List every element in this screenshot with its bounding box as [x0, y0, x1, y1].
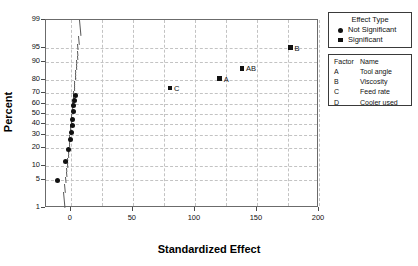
- factor-table-row: BViscosity: [329, 77, 411, 87]
- gridline: [319, 20, 320, 206]
- legend-entry-label: Significant: [348, 35, 383, 45]
- normal-probability-plot: Percent 151020304050607080909599 CAABB 0…: [0, 0, 418, 266]
- fit-line-segment: [76, 67, 77, 70]
- data-point-not-significant: [55, 178, 60, 183]
- x-tick-mark: [256, 207, 257, 211]
- gridline-minor: [102, 20, 103, 206]
- gridline: [46, 166, 317, 167]
- circle-marker-icon: [336, 28, 345, 33]
- x-tick-label: 150: [236, 214, 276, 222]
- factor-name: Viscosity: [360, 77, 411, 87]
- factor-name: Cooler used: [360, 98, 411, 108]
- fit-line-segment: [77, 51, 78, 56]
- factor-header-code: Factor: [334, 57, 360, 67]
- factor-table-row: DCooler used: [329, 98, 411, 108]
- fit-line-segment: [66, 172, 67, 177]
- y-tick-label: 95: [32, 43, 40, 51]
- y-tick-label: 1: [36, 203, 40, 211]
- gridline: [46, 62, 317, 63]
- factor-code: A: [334, 67, 360, 77]
- y-tick-label: 70: [32, 88, 40, 96]
- y-axis-title: Percent: [2, 82, 14, 142]
- fit-line-segment: [76, 64, 77, 67]
- data-point-label: B: [294, 45, 299, 53]
- data-point-significant: [217, 76, 222, 81]
- fit-line-segment: [67, 164, 68, 168]
- data-point-not-significant: [70, 117, 75, 122]
- legend-effect-type-title: Effect Type: [329, 15, 411, 24]
- factor-table-header: Factor Name: [329, 57, 411, 67]
- data-point-significant: [288, 45, 293, 50]
- fit-line-segment: [68, 155, 69, 158]
- factor-code: C: [334, 87, 360, 97]
- fit-line-segment: [64, 183, 66, 192]
- y-tick-label: 90: [32, 57, 40, 65]
- gridline: [46, 93, 317, 94]
- y-tick-label: 80: [32, 75, 40, 83]
- gridline: [46, 148, 317, 149]
- data-point-not-significant: [63, 159, 68, 164]
- factor-table-row: ATool angle: [329, 67, 411, 77]
- x-axis-title: Standardized Effect: [0, 243, 418, 255]
- legend-entry-label: Not Significant: [348, 25, 396, 35]
- gridline: [46, 104, 317, 105]
- x-tick-label: 200: [298, 214, 338, 222]
- gridline-minor: [164, 20, 165, 206]
- factor-table-row: CFeed rate: [329, 87, 411, 97]
- factor-name: Tool angle: [360, 67, 411, 77]
- square-marker-icon: [336, 38, 345, 43]
- data-point-label: C: [174, 85, 179, 93]
- gridline: [46, 124, 317, 125]
- gridline: [257, 20, 258, 206]
- fit-line-segment: [77, 56, 78, 60]
- y-tick-label: 40: [32, 119, 40, 127]
- gridline: [195, 20, 196, 206]
- x-tick-mark: [70, 207, 71, 211]
- data-point-not-significant: [70, 123, 75, 128]
- y-tick-label: 30: [32, 130, 40, 138]
- gridline: [46, 135, 317, 136]
- fit-line-segment: [74, 81, 75, 83]
- factor-name: Feed rate: [360, 87, 411, 97]
- factor-code: B: [334, 77, 360, 87]
- y-tick-label: 10: [32, 161, 40, 169]
- gridline: [46, 80, 317, 81]
- fit-line-segment: [79, 20, 81, 36]
- fit-line-segment: [74, 83, 75, 85]
- x-tick-label: 100: [174, 214, 214, 222]
- y-tick-label: 5: [36, 175, 40, 183]
- data-point-label: AB: [246, 65, 256, 73]
- legend-factor-table: Factor Name ATool angleBViscosityCFeed r…: [328, 54, 412, 106]
- gridline: [133, 20, 134, 206]
- x-tick-mark: [194, 207, 195, 211]
- data-point-significant: [168, 86, 173, 91]
- legend-entry-not-significant: Not Significant: [329, 25, 411, 35]
- y-tick-label: 99: [32, 15, 40, 23]
- x-tick-label: 50: [112, 214, 152, 222]
- plot-area: CAABB: [45, 19, 318, 207]
- gridline: [46, 48, 317, 49]
- data-point-not-significant: [71, 103, 76, 108]
- gridline: [46, 180, 317, 181]
- data-point-not-significant: [73, 93, 78, 98]
- y-tick-mark: [41, 207, 45, 208]
- data-point-label: A: [224, 76, 229, 84]
- y-tick-label: 20: [32, 143, 40, 151]
- gridline-minor: [226, 20, 227, 206]
- gridline: [46, 114, 317, 115]
- fit-line-segment: [66, 168, 67, 172]
- x-tick-mark: [318, 207, 319, 211]
- y-tick-label: 60: [32, 99, 40, 107]
- factor-table-body: ATool angleBViscosityCFeed rateDCooler u…: [329, 67, 411, 108]
- factor-code: D: [334, 98, 360, 108]
- data-point-not-significant: [72, 98, 77, 103]
- fit-line-segment: [75, 76, 76, 79]
- fit-line-segment: [75, 73, 76, 76]
- legend-entry-significant: Significant: [329, 35, 411, 45]
- fit-line-segment: [63, 192, 65, 208]
- factor-header-name: Name: [360, 57, 411, 67]
- x-tick-mark: [132, 207, 133, 211]
- data-point-not-significant: [68, 137, 73, 142]
- legend-effect-type: Effect Type Not Significant Significant: [328, 12, 412, 48]
- fit-line-segment: [78, 36, 80, 45]
